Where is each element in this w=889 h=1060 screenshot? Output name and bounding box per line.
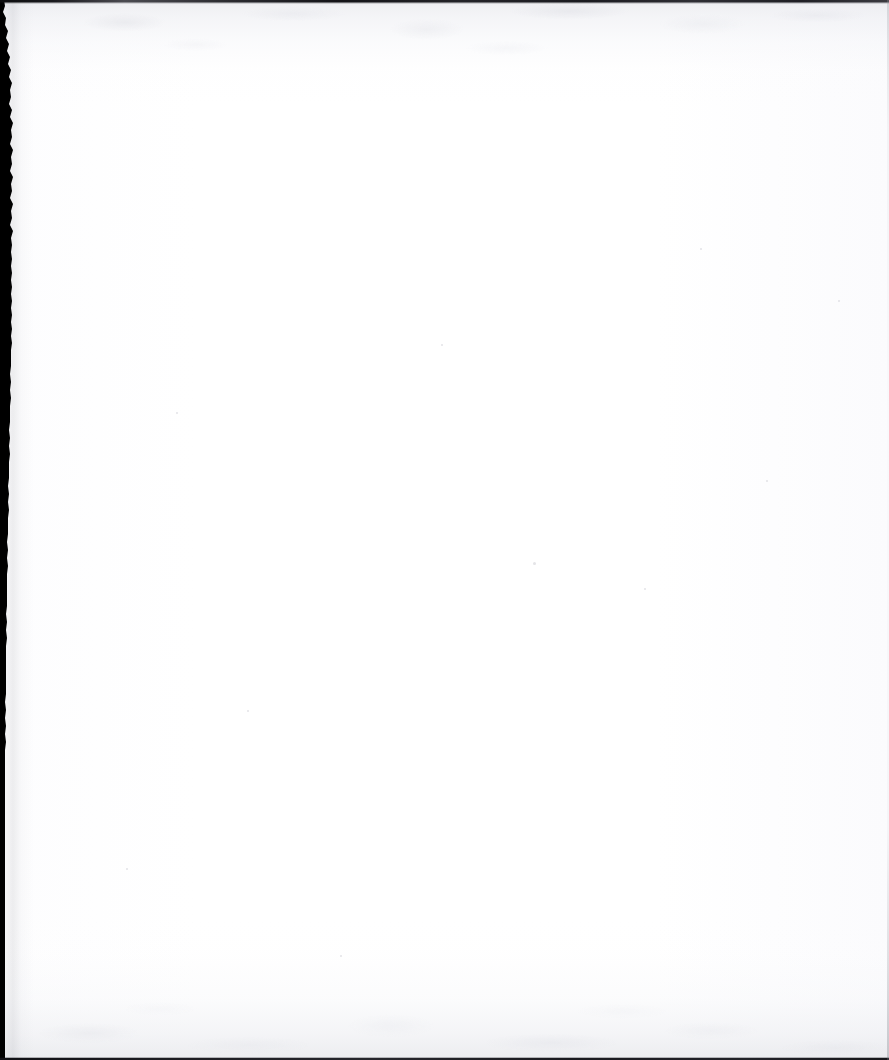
scanned-page xyxy=(0,0,889,1060)
scanner-gutter-shape xyxy=(0,0,13,1060)
page-text-content xyxy=(40,60,840,1000)
scanner-gutter xyxy=(0,0,22,1060)
top-edge-line xyxy=(0,0,889,4)
